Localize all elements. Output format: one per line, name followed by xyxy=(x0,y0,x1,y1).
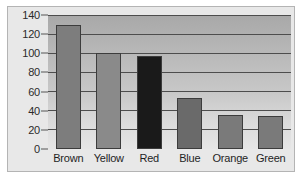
x-tick-label-red: Red xyxy=(129,151,170,165)
y-tick-label-40: 40 xyxy=(28,105,40,116)
x-axis: BrownYellowRedBlueOrangeGreen xyxy=(48,151,291,169)
bar-chart: 020406080100120140 BrownYellowRedBlueOra… xyxy=(8,7,294,171)
y-tick-label-0: 0 xyxy=(34,144,40,155)
y-tick-label-120: 120 xyxy=(22,29,40,40)
y-tick-mark-20 xyxy=(41,129,48,130)
x-tick-label-green: Green xyxy=(251,151,292,165)
y-tick-mark-0 xyxy=(41,149,48,150)
bar-blue xyxy=(177,98,202,149)
bar-red xyxy=(137,56,162,149)
x-tick-label-brown: Brown xyxy=(48,151,89,165)
x-tick-label-yellow: Yellow xyxy=(89,151,130,165)
y-axis: 020406080100120140 xyxy=(10,15,40,149)
bar-brown xyxy=(56,25,81,149)
x-tick-label-blue: Blue xyxy=(170,151,211,165)
y-tick-label-80: 80 xyxy=(28,67,40,78)
y-tick-mark-140 xyxy=(41,15,48,16)
chart-frame: 020406080100120140 BrownYellowRedBlueOra… xyxy=(7,6,295,172)
y-tick-mark-120 xyxy=(41,34,48,35)
y-tick-mark-60 xyxy=(41,91,48,92)
x-tick-label-orange: Orange xyxy=(210,151,251,165)
y-tick-mark-80 xyxy=(41,72,48,73)
y-tick-mark-40 xyxy=(41,110,48,111)
bar-green xyxy=(258,116,283,149)
bar-series xyxy=(48,15,291,149)
bar-yellow xyxy=(96,53,121,149)
y-tick-label-60: 60 xyxy=(28,86,40,97)
y-tick-mark-100 xyxy=(41,53,48,54)
bar-orange xyxy=(218,115,243,149)
plot-area xyxy=(48,15,291,149)
y-tick-label-100: 100 xyxy=(22,48,40,59)
y-tick-label-20: 20 xyxy=(28,124,40,135)
y-tick-label-140: 140 xyxy=(22,10,40,21)
